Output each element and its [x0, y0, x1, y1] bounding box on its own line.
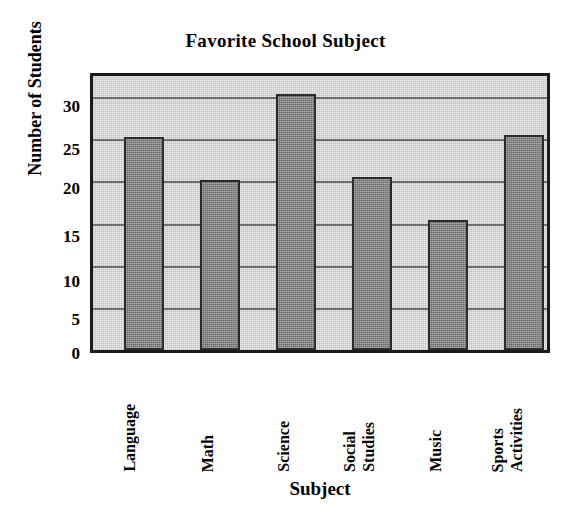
x-tick-text-music: Music — [428, 430, 445, 472]
bar-math[interactable] — [200, 180, 240, 350]
y-tick-label-15: 15 — [34, 228, 80, 245]
x-tick-text-studies: Studies — [361, 422, 378, 472]
x-tick-label-sports-activities: Sports Activities — [490, 362, 526, 472]
y-tick-label-0: 0 — [34, 345, 80, 362]
bar-social-studies[interactable] — [352, 177, 392, 350]
y-tick-label-10: 10 — [34, 273, 80, 290]
x-tick-text-social: Social — [342, 431, 359, 472]
bar-language[interactable] — [124, 137, 164, 350]
y-tick-label-25: 25 — [34, 141, 80, 158]
x-axis-title: Subject — [90, 478, 550, 500]
y-tick-label-5: 5 — [34, 311, 80, 328]
plot-inner — [93, 76, 547, 350]
x-tick-label-science: Science — [276, 362, 293, 472]
x-tick-label-music: Music — [428, 362, 445, 472]
chart-title: Favorite School Subject — [0, 30, 571, 52]
bar-science[interactable] — [276, 94, 316, 350]
bar-music[interactable] — [428, 220, 468, 350]
gridline-30 — [93, 97, 547, 99]
bar-sports-activities[interactable] — [504, 135, 544, 350]
x-tick-text-math: Math — [200, 435, 217, 472]
y-tick-label-30: 30 — [34, 98, 80, 115]
x-tick-text-activities: Activities — [509, 408, 526, 472]
x-tick-text-sports: Sports — [490, 428, 507, 472]
y-tick-label-20: 20 — [34, 180, 80, 197]
x-tick-text-language: Language — [122, 404, 139, 472]
x-tick-text-science: Science — [276, 421, 293, 472]
x-tick-label-language: Language — [122, 362, 139, 472]
plot-area — [90, 73, 550, 353]
x-tick-label-social-studies: Social Studies — [342, 362, 378, 472]
x-tick-label-math: Math — [200, 362, 217, 472]
